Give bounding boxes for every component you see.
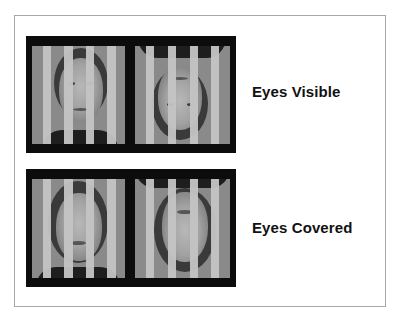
vertical-bars-overlay [135, 179, 230, 278]
upright-face-image [32, 179, 125, 278]
vertical-bars-overlay [135, 46, 230, 144]
eyes-covered-image-panel [26, 169, 236, 287]
eyes-visible-image-panel [26, 36, 236, 153]
vertical-bars-overlay [32, 46, 125, 144]
inverted-face-image [135, 179, 230, 278]
eyes-covered-label: Eyes Covered [252, 219, 352, 236]
eyes-visible-label: Eyes Visible [252, 83, 340, 100]
inverted-face-image [135, 46, 230, 144]
vertical-bars-overlay [32, 179, 125, 278]
upright-face-image [32, 46, 125, 144]
